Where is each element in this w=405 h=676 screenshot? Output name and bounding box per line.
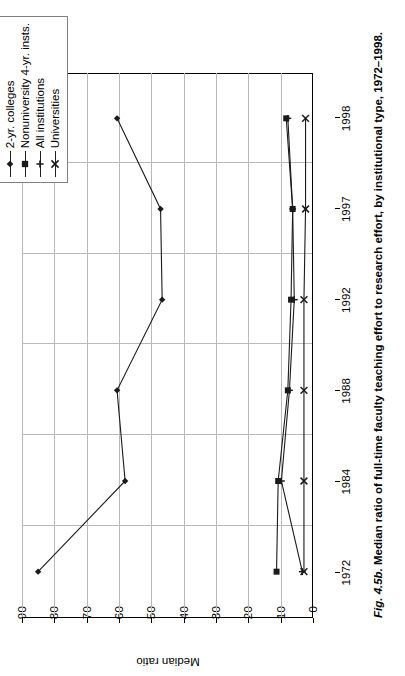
- diamond-marker-icon: [114, 387, 120, 393]
- series-3: [278, 115, 306, 575]
- chart-legend[interactable]: 2-yr. collegesNonuniversity 4-yr. insts.…: [0, 16, 68, 183]
- y-tick-mark: [281, 618, 282, 623]
- x-tick-mark: [335, 572, 340, 573]
- y-tick-mark: [248, 618, 249, 623]
- diamond-marker-icon: [157, 206, 163, 212]
- legend-item-label: All institutions: [34, 78, 47, 148]
- x-tick-mark: [335, 117, 340, 118]
- legend-item-label: 2-yr. colleges: [4, 81, 17, 149]
- series-line: [277, 118, 293, 571]
- caption-body: Median ratio of full-time faculty teachi…: [372, 32, 384, 568]
- x-tick-mark: [335, 481, 340, 482]
- series-line: [38, 118, 162, 571]
- series-1: [35, 115, 165, 575]
- figure-canvas: Median ratio 0102030405060708090 1972198…: [0, 0, 405, 676]
- diamond-marker-icon: [159, 296, 165, 302]
- y-tick-mark: [87, 618, 88, 623]
- x-tick-mark: [335, 299, 340, 300]
- x-tick-label: 1998: [340, 106, 352, 132]
- y-tick-mark: [119, 618, 120, 623]
- x-tick-label: 1997: [340, 196, 352, 222]
- caption-figure-number: Fig. 4.5b.: [372, 568, 384, 618]
- y-tick-mark: [54, 618, 55, 623]
- legend-item-1[interactable]: 2-yr. colleges: [3, 23, 18, 177]
- series-line: [304, 118, 306, 571]
- plus-marker-icon: [34, 151, 47, 177]
- legend-item-2[interactable]: Nonuniversity 4-yr. insts.: [18, 23, 33, 177]
- x-tick-label: 1988: [340, 378, 352, 404]
- x-tick-label: 1972: [340, 560, 352, 586]
- legend-item-label: Nonuniversity 4-yr. insts.: [19, 23, 32, 148]
- rotated-figure-stage: Median ratio 0102030405060708090 1972198…: [0, 0, 405, 676]
- diamond-marker-icon: [114, 115, 120, 121]
- x-tick-label: 1992: [340, 287, 352, 313]
- figure-caption: Fig. 4.5b. Median ratio of full-time fac…: [372, 32, 384, 618]
- square-marker-icon: [274, 569, 280, 575]
- series-line: [281, 118, 302, 571]
- y-tick-mark: [22, 618, 23, 623]
- x-tick-mark: [335, 390, 340, 391]
- y-tick-mark: [216, 618, 217, 623]
- series-4: [301, 115, 309, 575]
- y-tick-mark: [184, 618, 185, 623]
- diamond-marker-icon: [4, 151, 17, 177]
- x-marker-icon: [49, 151, 62, 177]
- legend-item-4[interactable]: Universities: [48, 23, 63, 177]
- y-axis-title: Median ratio: [136, 656, 199, 668]
- legend-item-3[interactable]: All institutions: [33, 23, 48, 177]
- x-tick-label: 1984: [340, 469, 352, 495]
- y-tick-mark: [313, 618, 314, 623]
- y-tick-mark: [151, 618, 152, 623]
- x-tick-mark: [335, 208, 340, 209]
- square-marker-icon: [19, 151, 32, 177]
- legend-item-label: Universities: [49, 89, 62, 148]
